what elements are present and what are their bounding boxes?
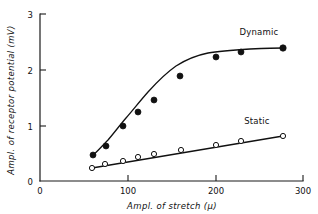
data-point — [90, 152, 96, 158]
x-tick-label-0: 0 — [37, 186, 42, 196]
x-axis-title: Ampl. of stretch (µ) — [126, 201, 217, 211]
data-point — [102, 161, 107, 166]
data-point — [135, 109, 141, 115]
data-point — [103, 143, 109, 149]
static-series-line — [92, 136, 283, 168]
data-point — [135, 154, 140, 159]
x-tick-label-300: 300 — [295, 186, 311, 196]
data-point — [238, 49, 244, 55]
data-point — [89, 165, 94, 170]
y-tick-label-1: 1 — [28, 122, 33, 132]
dynamic-series-curve — [93, 48, 283, 155]
data-point — [177, 73, 183, 79]
x-axis-ticks — [128, 175, 303, 181]
data-point — [213, 54, 219, 60]
data-point — [280, 45, 286, 51]
data-point — [280, 133, 285, 138]
chart-figure: 3 2 1 0 0 100 200 300 Ampl. of stretch (… — [0, 0, 318, 214]
data-point — [151, 151, 156, 156]
y-axis-title: Ampl. of receptor potential (mV) — [6, 25, 16, 175]
y-tick-label-0: 0 — [28, 177, 33, 187]
data-point — [213, 142, 218, 147]
x-tick-label-100: 100 — [120, 186, 136, 196]
data-point — [151, 97, 157, 103]
data-point — [120, 158, 125, 163]
static-series-label: Static — [244, 116, 270, 126]
data-point — [178, 147, 183, 152]
data-point — [120, 123, 126, 129]
y-axis-ticks — [40, 14, 46, 126]
y-tick-label-3: 3 — [28, 10, 33, 20]
data-point — [238, 138, 243, 143]
y-tick-label-2: 2 — [28, 66, 33, 76]
x-tick-label-200: 200 — [208, 186, 224, 196]
dynamic-series-label: Dynamic — [240, 27, 279, 37]
chart-plot-area: 3 2 1 0 0 100 200 300 Ampl. of stretch (… — [0, 0, 318, 214]
